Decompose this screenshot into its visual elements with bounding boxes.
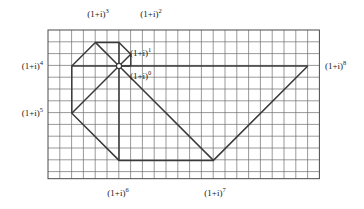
label-exponent: 2 bbox=[158, 7, 161, 14]
label-p6: (1+i)6 bbox=[107, 189, 128, 198]
label-base: (1+i) bbox=[22, 61, 40, 71]
label-exponent: 7 bbox=[222, 186, 225, 193]
label-exponent: 4 bbox=[40, 59, 43, 66]
label-base: (1+i) bbox=[140, 9, 158, 19]
label-exponent: 3 bbox=[105, 7, 108, 14]
label-base: (1+i) bbox=[204, 188, 222, 198]
label-p5: (1+i)5 bbox=[22, 109, 43, 118]
label-p4: (1+i)4 bbox=[22, 62, 43, 71]
label-p3: (1+i)3 bbox=[87, 10, 108, 19]
label-base: (1+i) bbox=[22, 108, 40, 118]
label-exponent: 5 bbox=[40, 106, 43, 113]
label-base: (1+i) bbox=[107, 188, 125, 198]
grid-lines bbox=[48, 30, 319, 179]
label-p7: (1+i)7 bbox=[204, 189, 225, 198]
label-p2: (1+i)2 bbox=[140, 10, 161, 19]
powers-of-1-plus-i-figure bbox=[0, 0, 364, 209]
label-exponent: 0 bbox=[148, 69, 151, 76]
grid-border bbox=[48, 30, 319, 179]
label-p0: (1+i)0 bbox=[130, 72, 151, 81]
label-exponent: 1 bbox=[148, 46, 151, 53]
origin-node bbox=[116, 63, 121, 68]
label-base: (1+i) bbox=[130, 71, 148, 81]
label-base: (1+i) bbox=[130, 48, 148, 58]
label-p8: (1+i)8 bbox=[325, 62, 346, 71]
label-base: (1+i) bbox=[87, 9, 105, 19]
label-exponent: 8 bbox=[343, 59, 346, 66]
label-exponent: 6 bbox=[125, 186, 128, 193]
label-base: (1+i) bbox=[325, 61, 343, 71]
label-p1: (1+i)1 bbox=[130, 49, 151, 58]
